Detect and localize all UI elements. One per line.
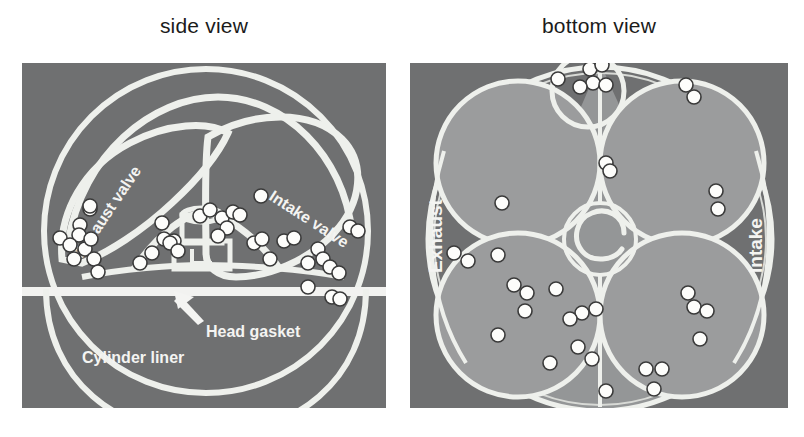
marker-point — [447, 246, 461, 260]
marker-point — [301, 280, 315, 294]
marker-point — [91, 265, 105, 279]
marker-point — [211, 229, 225, 243]
marker-point — [461, 254, 475, 268]
marker-point — [549, 282, 563, 296]
marker-point — [67, 252, 81, 266]
marker-point — [263, 252, 277, 266]
panel-bottom-view: bottom view — [410, 14, 788, 408]
marker-point — [491, 248, 505, 262]
panel-title-bottom-view: bottom view — [410, 14, 788, 38]
cylinder-bore-4 — [600, 233, 764, 397]
marker-point — [681, 286, 695, 300]
label-cylinder-liner-text: Cylinder liner — [82, 349, 184, 366]
marker-point — [145, 246, 159, 260]
label-intake-text: Intake — [745, 218, 766, 273]
label-head-gasket-text: Head gasket — [206, 323, 301, 340]
marker-point — [351, 224, 365, 238]
marker-point — [518, 304, 532, 318]
marker-point — [332, 266, 346, 280]
panel-side-view: side view — [22, 14, 386, 408]
marker-point — [333, 292, 347, 306]
marker-point — [155, 216, 169, 230]
marker-point — [599, 384, 613, 398]
marker-point — [233, 208, 247, 222]
marker-point — [687, 90, 701, 104]
marker-point — [254, 189, 268, 203]
marker-point — [603, 164, 617, 178]
marker-point — [586, 76, 600, 90]
marker-point — [287, 231, 301, 245]
marker-point — [563, 312, 577, 326]
marker-point — [585, 352, 599, 366]
marker-point — [571, 340, 585, 354]
side-view-svg: Exhaust valve Intake valve Head gasket C… — [22, 63, 386, 408]
marker-point — [87, 252, 101, 266]
marker-point — [647, 382, 661, 396]
marker-point — [595, 63, 609, 72]
marker-point — [709, 184, 723, 198]
label-exhaust-text: Exhaust — [425, 198, 446, 273]
marker-point — [687, 300, 701, 314]
marker-point — [301, 256, 315, 270]
marker-point — [693, 332, 707, 346]
bottom-view-image: Exhaust Intake — [410, 63, 788, 408]
marker-point — [543, 356, 557, 370]
marker-point — [133, 256, 147, 270]
marker-point — [84, 232, 98, 246]
cylinder-bore-2 — [600, 81, 764, 245]
panel-title-side-view: side view — [22, 14, 386, 38]
marker-point — [589, 302, 603, 316]
marker-point — [520, 286, 534, 300]
marker-point — [639, 362, 653, 376]
marker-point — [171, 244, 185, 258]
marker-point — [655, 362, 669, 376]
marker-point — [507, 278, 521, 292]
marker-point — [495, 196, 509, 210]
marker-point — [255, 232, 269, 246]
figure-root: side view — [0, 0, 804, 437]
marker-point — [573, 80, 587, 94]
cylinder-bore-1 — [436, 81, 600, 245]
marker-point — [83, 199, 97, 213]
marker-point — [491, 328, 505, 342]
marker-point — [599, 78, 613, 92]
bottom-view-svg: Exhaust Intake — [410, 63, 788, 408]
marker-point — [700, 304, 714, 318]
marker-point — [63, 238, 77, 252]
side-view-image: Exhaust valve Intake valve Head gasket C… — [22, 63, 386, 408]
marker-point — [711, 202, 725, 216]
marker-point — [551, 72, 565, 86]
